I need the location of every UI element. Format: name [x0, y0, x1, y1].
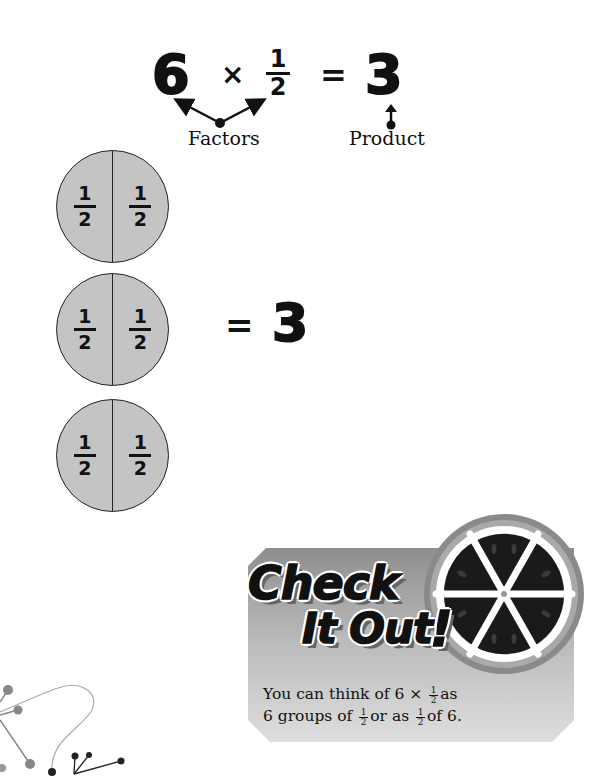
fraction-half: 1 2	[129, 307, 151, 353]
fraction-half: 1 2	[129, 433, 151, 479]
half-left: 1 2	[57, 151, 113, 262]
denominator: 2	[134, 459, 147, 479]
numerator: 1	[78, 307, 91, 327]
denominator: 2	[270, 75, 287, 100]
numerator: 1	[134, 184, 147, 204]
text-segment: You can think of 6 ×	[263, 685, 427, 703]
half-left: 1 2	[57, 400, 113, 511]
half-right: 1 2	[113, 274, 169, 385]
denominator: 2	[418, 718, 424, 727]
numerator: 1	[134, 433, 147, 453]
denominator: 2	[134, 333, 147, 353]
numerator: 1	[361, 708, 367, 717]
factor-six: 6	[152, 48, 190, 102]
numerator: 1	[431, 686, 437, 695]
factors-arrow-icon	[170, 95, 270, 130]
fraction-half: 1 2	[74, 184, 96, 230]
inline-fraction-half: 12	[416, 708, 425, 727]
equation: 6 × 1 2 = 3 Factors Product	[0, 0, 606, 160]
text-segment: as	[440, 685, 457, 703]
text-segment: 6 groups of	[263, 707, 357, 725]
product-three: 3	[365, 48, 403, 102]
numerator: 1	[134, 307, 147, 327]
fraction-half: 1 2	[129, 184, 151, 230]
numerator: 1	[78, 184, 91, 204]
denominator: 2	[361, 718, 367, 727]
half-right: 1 2	[113, 151, 169, 262]
fraction-half: 1 2	[74, 433, 96, 479]
text-line-1: You can think of 6 × 12as	[263, 683, 462, 705]
inline-fraction-half: 12	[429, 686, 438, 705]
check-it-out-text: You can think of 6 × 12as 6 groups of 12…	[263, 683, 462, 727]
factors-label: Factors	[188, 127, 260, 149]
equals-sign: =	[320, 56, 347, 94]
fraction-half: 1 2	[74, 307, 96, 353]
denominator: 2	[78, 210, 91, 230]
group-circle-1: 1 2 1 2	[56, 150, 169, 263]
numerator: 1	[418, 708, 424, 717]
group-circle-3: 1 2 1 2	[56, 399, 169, 512]
numerator: 1	[78, 433, 91, 453]
denominator: 2	[78, 333, 91, 353]
check-it-out-title-line1: Check	[248, 556, 399, 610]
groups-result: 3	[272, 297, 308, 349]
numerator: 1	[270, 47, 287, 72]
denominator: 2	[78, 459, 91, 479]
half-left: 1 2	[57, 274, 113, 385]
text-line-2: 6 groups of 12or as 12of 6.	[263, 705, 462, 727]
inline-fraction-half: 12	[359, 708, 368, 727]
denominator: 2	[134, 210, 147, 230]
half-right: 1 2	[113, 400, 169, 511]
group-circle-2: 1 2 1 2	[56, 273, 169, 386]
check-it-out-title-line2: It Out	[302, 604, 432, 653]
factor-half: 1 2	[266, 47, 290, 100]
groups-equals-sign: =	[225, 305, 254, 345]
check-it-out-exclaim: !	[430, 600, 452, 658]
times-sign: ×	[221, 58, 244, 91]
product-label: Product	[349, 127, 425, 149]
denominator: 2	[431, 696, 437, 705]
molecule-decoration-icon	[0, 680, 140, 776]
text-segment: of 6.	[427, 707, 462, 725]
text-segment: or as	[370, 707, 414, 725]
